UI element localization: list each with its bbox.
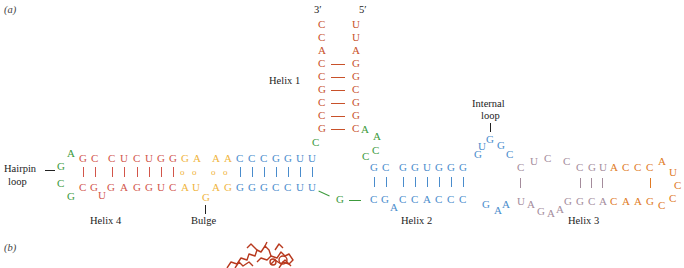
nucleotide: A <box>494 205 502 216</box>
nucleotide: G <box>236 182 244 193</box>
nucleotide: C <box>646 162 653 173</box>
nucleotide: C <box>318 71 325 82</box>
nucleotide: C <box>563 156 570 167</box>
nucleotide: G <box>447 162 455 173</box>
nucleotide: C <box>133 153 140 164</box>
nucleotide: C <box>169 182 176 193</box>
nucleotide: C <box>362 151 369 162</box>
nucleotide: G <box>79 153 87 164</box>
nucleotide: C <box>312 137 319 148</box>
nucleotide: G <box>284 153 292 164</box>
nucleotide: A <box>67 148 75 159</box>
nucleotide: G <box>399 162 407 173</box>
nucleotide: G <box>260 182 268 193</box>
nucleotide: A <box>599 196 607 207</box>
nucleotide: G <box>537 206 545 217</box>
nucleotide: C <box>372 145 379 156</box>
nucleotide: A <box>634 196 642 207</box>
nucleotide: G <box>133 182 141 193</box>
nucleotide: U <box>120 153 128 164</box>
nucleotide: C <box>108 153 115 164</box>
nucleotide: U <box>530 156 538 167</box>
internal-loop-label: Internal <box>472 98 505 110</box>
nucleotide: C <box>588 196 595 207</box>
nucleotide: C <box>91 153 98 164</box>
nucleotide: C <box>318 97 325 108</box>
nucleotide: C <box>674 180 681 191</box>
nucleotide: U <box>352 32 360 43</box>
nucleotide: G <box>248 182 256 193</box>
nucleotide: A <box>181 182 189 193</box>
nucleotide: U <box>423 162 431 173</box>
nucleotide: A <box>502 199 510 210</box>
helix3-label: Helix 3 <box>568 215 599 227</box>
nucleotide: G <box>90 182 98 193</box>
bulge-label: Bulge <box>191 215 216 227</box>
nucleotide: G <box>459 162 467 173</box>
hairpin-label: Hairpin <box>4 163 36 175</box>
nucleotide: U <box>192 182 200 193</box>
nucleotide: A <box>352 45 360 56</box>
nucleotide: G <box>564 196 572 207</box>
5prime-label: 5′ <box>359 4 367 16</box>
nucleotide: C <box>370 194 377 205</box>
nucleotide: U <box>308 153 316 164</box>
nucleotide: C <box>318 32 325 43</box>
nucleotide: G <box>224 182 232 193</box>
nucleotide: U <box>599 162 607 173</box>
nucleotide: G <box>107 182 115 193</box>
nucleotide: U <box>98 190 106 201</box>
nucleotide: A <box>556 204 564 215</box>
nucleotide: G <box>381 194 389 205</box>
nucleotide: C <box>459 194 466 205</box>
nucleotide: G <box>352 97 360 108</box>
nucleotide: G <box>352 110 360 121</box>
nucleotide: A <box>423 194 431 205</box>
nucleotide: U <box>352 19 360 30</box>
nucleotide: G <box>411 162 419 173</box>
nucleotide: A <box>224 153 232 164</box>
nucleotide: G <box>486 134 494 145</box>
nucleotide: A <box>373 131 381 142</box>
nucleotide: A <box>318 45 326 56</box>
rna-secondary-structure-figure: (a) (b) 3′ 5′ Helix 1 C C A C C G C C G … <box>0 0 684 268</box>
nucleotide: A <box>527 199 535 210</box>
nucleotide: G <box>497 140 505 151</box>
nucleotide: C <box>669 193 676 204</box>
nucleotide: A <box>120 182 128 193</box>
nucleotide: G <box>67 191 75 202</box>
panel-label-a: (a) <box>4 4 16 15</box>
nucleotide: G <box>646 196 654 207</box>
nucleotide: A <box>622 196 630 207</box>
nucleotide: G <box>169 153 177 164</box>
nucleotide: G <box>181 153 189 164</box>
nucleotide: G <box>318 123 326 134</box>
nucleotide: C <box>352 123 359 134</box>
nucleotide: G <box>435 162 443 173</box>
nucleotide: C <box>506 149 513 160</box>
nucleotide: U <box>308 182 316 193</box>
nucleotide: G <box>370 162 378 173</box>
nucleotide: A <box>658 156 666 167</box>
3prime-label: 3′ <box>314 4 322 16</box>
nucleotide: C <box>318 19 325 30</box>
nucleotide: A <box>610 162 618 173</box>
bulge-pointer <box>205 205 206 214</box>
nucleotide: U <box>669 167 677 178</box>
nucleotide: C <box>260 153 267 164</box>
nucleotide: G <box>482 199 490 210</box>
nucleotide: U <box>296 182 304 193</box>
nucleotide: U <box>145 153 153 164</box>
nucleotide: U <box>296 153 304 164</box>
nucleotide: A <box>193 153 201 164</box>
internal-loop-label-line2: loop <box>481 110 500 122</box>
nucleotide: G <box>588 162 596 173</box>
nucleotide: G <box>352 71 360 82</box>
nucleotide: G <box>576 196 584 207</box>
nucleotide: A <box>212 153 220 164</box>
nucleotide: U <box>517 196 525 207</box>
nucleotide: A <box>361 124 369 135</box>
nucleotide: G <box>352 58 360 69</box>
rna-3d-structure-icon <box>205 240 305 268</box>
nucleotide: C <box>658 200 665 211</box>
